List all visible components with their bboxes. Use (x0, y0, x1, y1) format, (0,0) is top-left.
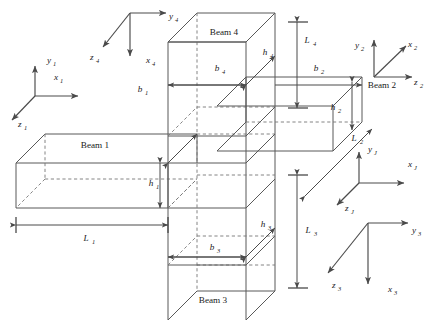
svg-text:h: h (261, 219, 266, 229)
axis-label-z4: z 4 (89, 52, 100, 64)
svg-text:z: z (89, 52, 94, 62)
svg-text:3: 3 (393, 289, 397, 296)
svg-text:h: h (263, 47, 268, 57)
dimension-label-L4: L 4 (303, 35, 317, 47)
diagram-labels: Beam 1 Beam 2 Beam 3 Beam 4 L 1 b 1 h 1 … (0, 0, 430, 335)
svg-text:1: 1 (145, 89, 148, 96)
beam-3-name: Beam 3 (199, 295, 228, 305)
svg-text:4: 4 (270, 52, 274, 59)
svg-text:1: 1 (24, 124, 27, 131)
svg-text:2: 2 (338, 107, 342, 114)
dimension-label-L2: L 2 (350, 133, 364, 145)
dimension-label-b1: b 1 (138, 84, 149, 96)
axis-label-y3: y 3 (411, 225, 421, 237)
svg-text:y: y (168, 11, 174, 21)
svg-text:J: J (351, 208, 355, 215)
axis-label-x4: x 4 (145, 55, 156, 67)
dimension-label-b3: b 3 (210, 242, 221, 254)
svg-text:4: 4 (96, 57, 100, 64)
svg-text:b: b (215, 63, 220, 73)
axis-label-zJ: z J (344, 203, 355, 215)
svg-text:4: 4 (222, 68, 226, 75)
svg-text:b: b (138, 84, 143, 94)
axis-label-xJ: x J (407, 159, 418, 171)
svg-text:1: 1 (53, 60, 56, 67)
axis-label-x3: x 3 (387, 284, 397, 296)
svg-text:4: 4 (175, 16, 179, 23)
svg-text:y: y (411, 225, 417, 235)
svg-text:L: L (82, 233, 88, 243)
svg-text:3: 3 (216, 247, 220, 254)
dimension-label-L3: L 3 (304, 225, 317, 237)
svg-text:2: 2 (414, 44, 418, 51)
svg-text:h: h (331, 102, 336, 112)
axis-label-z1: z 1 (17, 119, 27, 131)
axis-label-z3: z 3 (331, 280, 341, 292)
svg-text:J: J (374, 149, 378, 156)
svg-text:z: z (344, 203, 349, 213)
svg-text:1: 1 (60, 77, 63, 84)
svg-text:b: b (210, 242, 215, 252)
svg-text:x: x (407, 39, 413, 49)
svg-text:y: y (354, 40, 360, 50)
svg-text:1: 1 (92, 238, 95, 245)
svg-text:4: 4 (152, 60, 156, 67)
dimension-label-h3: h 3 (261, 219, 272, 231)
svg-text:x: x (53, 72, 59, 82)
svg-text:J: J (414, 164, 418, 171)
svg-text:x: x (407, 159, 413, 169)
svg-text:z: z (331, 280, 336, 290)
axis-label-y4: y 4 (168, 11, 179, 23)
svg-text:2: 2 (360, 138, 364, 145)
figure-canvas: Beam 1 Beam 2 Beam 3 Beam 4 L 1 b 1 h 1 … (0, 0, 430, 335)
svg-text:L: L (304, 225, 310, 235)
dimension-label-h1: h 1 (149, 178, 160, 190)
axis-label-x1: x 1 (53, 72, 63, 84)
dimension-label-b2: b 2 (314, 63, 325, 75)
svg-text:h: h (149, 178, 154, 188)
svg-text:z: z (413, 77, 418, 87)
svg-text:L: L (350, 133, 356, 143)
svg-text:x: x (387, 284, 393, 294)
beam-1-name: Beam 1 (81, 140, 110, 150)
svg-text:y: y (367, 144, 373, 154)
beam-4-name: Beam 4 (210, 27, 239, 37)
axis-label-yJ: y J (367, 144, 378, 156)
axis-label-y2: y 2 (354, 40, 365, 52)
axis-label-z2: z 2 (413, 77, 424, 89)
svg-text:4: 4 (313, 40, 317, 47)
svg-text:x: x (145, 55, 151, 65)
dimension-label-b4: b 4 (215, 63, 226, 75)
dimension-label-h2: h 2 (331, 102, 342, 114)
svg-text:3: 3 (337, 285, 341, 292)
svg-text:2: 2 (321, 68, 325, 75)
beam-2-name: Beam 2 (368, 80, 397, 90)
svg-text:L: L (303, 35, 309, 45)
svg-text:2: 2 (420, 82, 424, 89)
svg-text:1: 1 (156, 183, 159, 190)
svg-text:2: 2 (361, 45, 365, 52)
dimension-label-h4: h 4 (263, 47, 274, 59)
svg-text:3: 3 (417, 230, 421, 237)
svg-text:z: z (17, 119, 22, 129)
dimension-label-L1: L 1 (82, 233, 95, 245)
axis-label-x2: x 2 (407, 39, 418, 51)
svg-text:y: y (46, 55, 52, 65)
svg-text:3: 3 (313, 230, 317, 237)
axis-label-y1: y 1 (46, 55, 56, 67)
svg-text:3: 3 (267, 224, 271, 231)
svg-text:b: b (314, 63, 319, 73)
